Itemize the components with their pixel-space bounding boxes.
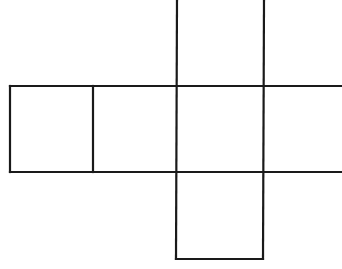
column-left-edge xyxy=(176,0,177,259)
cube-net-diagram xyxy=(0,0,342,269)
column-right-edge xyxy=(263,0,264,259)
